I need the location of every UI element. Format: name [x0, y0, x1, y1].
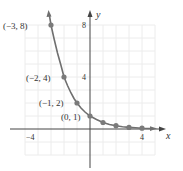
point-3 — [126, 125, 131, 130]
label-point-neg1: (−1, 2) — [39, 98, 64, 108]
x-axis-label: x — [165, 130, 171, 141]
point-1 — [100, 120, 105, 125]
y-axis — [88, 10, 93, 168]
tick-x-neg4: −4 — [26, 133, 35, 142]
tick-y-4: 4 — [82, 73, 86, 82]
label-point-0: (0, 1) — [61, 112, 81, 122]
y-axis-label: y — [95, 9, 101, 20]
tick-y-8: 8 — [82, 21, 86, 30]
exponential-chart: (−3, 8) (−2, 4) (−1, 2) (0, 1) 8 4 −4 4 … — [0, 0, 183, 171]
point-neg2 — [61, 74, 66, 79]
label-point-neg2: (−2, 4) — [26, 73, 51, 83]
point-4 — [139, 126, 144, 131]
label-point-neg3: (−3, 8) — [3, 21, 28, 31]
point-2 — [113, 123, 118, 128]
curve-arrow-up-icon — [47, 10, 52, 17]
point-neg1 — [74, 100, 79, 105]
tick-x-4: 4 — [140, 133, 144, 142]
curve-arrow-right-icon — [150, 126, 157, 131]
point-0 — [87, 113, 92, 118]
point-neg3 — [48, 22, 53, 27]
